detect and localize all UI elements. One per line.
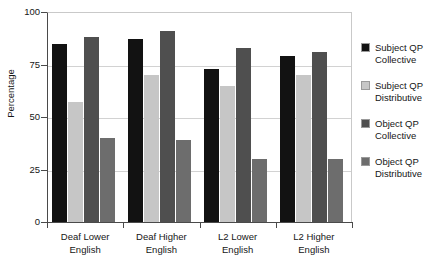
x-axis-tick bbox=[200, 222, 201, 228]
legend-label: Subject QP Collective bbox=[375, 42, 423, 65]
bar bbox=[328, 159, 343, 222]
bar bbox=[68, 102, 83, 222]
bar bbox=[84, 37, 99, 222]
legend-swatch-icon bbox=[361, 157, 370, 166]
x-axis-tick bbox=[47, 222, 48, 228]
x-axis-tick bbox=[123, 222, 124, 228]
bar bbox=[252, 159, 267, 222]
y-axis-tick-label: 100 bbox=[0, 6, 40, 17]
legend-item: Object QP Collective bbox=[361, 118, 443, 141]
chart-root: Percentage 0255075100 Deaf Lower English… bbox=[0, 0, 443, 270]
bar bbox=[204, 69, 219, 222]
bar bbox=[52, 44, 67, 223]
legend-item: Object QP Distributive bbox=[361, 156, 443, 179]
legend-label: Subject QP Distributive bbox=[375, 80, 423, 103]
legend-swatch-icon bbox=[361, 81, 370, 90]
legend-label: Object QP Collective bbox=[375, 118, 419, 141]
bar-group bbox=[276, 12, 352, 222]
y-axis-tick-label: 50 bbox=[0, 111, 40, 122]
legend-label: Object QP Distributive bbox=[375, 156, 422, 179]
bar bbox=[176, 140, 191, 222]
bar-group bbox=[200, 12, 276, 222]
bar bbox=[280, 56, 295, 222]
legend-item: Subject QP Collective bbox=[361, 42, 443, 65]
bar bbox=[236, 48, 251, 222]
bar-group bbox=[47, 12, 123, 222]
legend: Subject QP CollectiveSubject QP Distribu… bbox=[361, 42, 443, 194]
bar bbox=[100, 138, 115, 222]
y-axis-tick-label: 25 bbox=[0, 164, 40, 175]
x-axis-category-label: L2 Higher English bbox=[269, 231, 359, 256]
legend-swatch-icon bbox=[361, 43, 370, 52]
y-axis-tick-label: 75 bbox=[0, 59, 40, 70]
bar bbox=[144, 75, 159, 222]
bar bbox=[128, 39, 143, 222]
bar bbox=[296, 75, 311, 222]
bar bbox=[220, 86, 235, 223]
bar bbox=[160, 31, 175, 222]
x-axis-tick bbox=[352, 222, 353, 228]
bar bbox=[312, 52, 327, 222]
legend-item: Subject QP Distributive bbox=[361, 80, 443, 103]
legend-swatch-icon bbox=[361, 119, 370, 128]
bar-group bbox=[123, 12, 199, 222]
y-axis-tick-label: 0 bbox=[0, 216, 40, 227]
x-axis-tick bbox=[276, 222, 277, 228]
